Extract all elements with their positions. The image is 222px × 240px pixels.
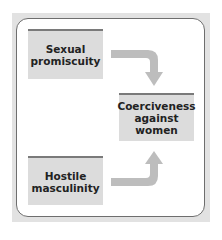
node-label: Hostile masculinity [31,170,99,194]
arrow-sexual-to-coerciveness [111,50,163,86]
node-hostile-masculinity: Hostile masculinity [28,156,103,205]
node-sexual-promiscuity: Sexual promiscuity [28,29,103,79]
node-label: Sexual promiscuity [31,43,101,67]
node-coerciveness-against-women: Coerciveness against women [119,93,194,141]
node-label: Coerciveness against women [117,100,195,136]
arrow-hostile-to-coerciveness [111,151,163,186]
